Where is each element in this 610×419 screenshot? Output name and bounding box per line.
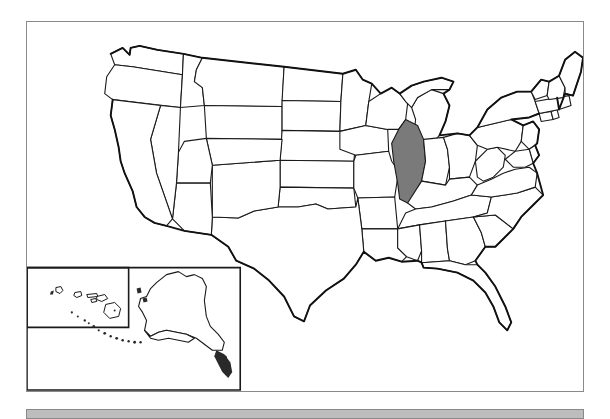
state-maryland[interactable] — [505, 149, 533, 167]
island-maui — [97, 295, 108, 302]
state-arkansas[interactable] — [358, 197, 398, 229]
us-map-svg[interactable] — [27, 22, 583, 391]
island-molokai — [87, 294, 98, 298]
state-iowa[interactable] — [340, 125, 389, 155]
alaska-panhandle — [214, 350, 232, 378]
hawaii-inset[interactable] — [27, 268, 129, 328]
state-alabama[interactable] — [420, 221, 450, 263]
state-kansas[interactable] — [280, 160, 354, 188]
island-hawaii-big — [104, 302, 121, 318]
state-utah[interactable] — [176, 138, 212, 183]
state-missouri[interactable] — [354, 151, 399, 198]
map-frame — [26, 21, 584, 392]
state-wyoming[interactable] — [204, 106, 282, 140]
island-kauai — [56, 287, 63, 294]
us-map[interactable] — [27, 22, 583, 391]
island-lanai — [91, 299, 97, 303]
state-arizona[interactable] — [172, 183, 212, 235]
island-niihau — [50, 291, 54, 295]
state-indiana[interactable] — [422, 137, 450, 185]
state-south-dakota[interactable] — [282, 101, 341, 132]
footer-bar — [26, 409, 584, 419]
state-colorado[interactable] — [206, 138, 282, 165]
alaska-inset[interactable] — [27, 268, 240, 390]
island-oahu — [74, 292, 82, 298]
